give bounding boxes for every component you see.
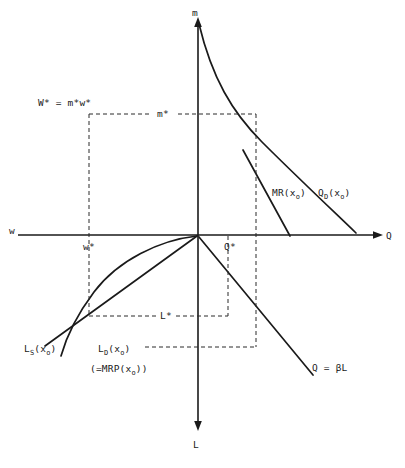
curve-labor-demand bbox=[61, 236, 197, 356]
mr-arg-close: ) bbox=[300, 187, 306, 198]
curve-label-labor-supply: LS(xo) bbox=[24, 343, 57, 357]
mr-arg: (x bbox=[284, 187, 296, 198]
curve-label-production: Q = βL bbox=[312, 362, 348, 373]
axis-label-Q: Q bbox=[386, 230, 392, 241]
curve-label-demand: QD(xo) bbox=[318, 187, 351, 201]
curve-label-labor-demand: LD(xo) bbox=[98, 343, 131, 357]
label-L-star: L* bbox=[160, 310, 172, 321]
l-axis-arrowhead bbox=[194, 421, 202, 431]
svg-text:(=MRP(xo)): (=MRP(xo)) bbox=[90, 363, 148, 377]
label-w-star: w* bbox=[83, 241, 95, 252]
mr-base: MR bbox=[272, 187, 284, 198]
curve-labor-supply bbox=[45, 236, 197, 346]
curve-demand-qd bbox=[199, 24, 356, 233]
label-wage-bill: W* = m*w* bbox=[38, 97, 91, 108]
label-m-star: m* bbox=[157, 108, 169, 119]
curve-label-marginal-revenue: MR(xo) bbox=[272, 187, 306, 201]
mrp-open: (=MRP(x bbox=[90, 363, 132, 374]
label-Q-star: Q* bbox=[224, 241, 236, 252]
q-axis-arrowhead bbox=[373, 231, 383, 239]
diagram-canvas: m Q w L W* = m*w* m* w* Q* L* QD(xo) MR(… bbox=[0, 0, 405, 468]
ld-arg: (x bbox=[108, 343, 120, 354]
svg-text:LS(xo): LS(xo) bbox=[24, 343, 57, 357]
axis-label-L: L bbox=[193, 439, 199, 450]
qd-arg: (x bbox=[328, 187, 340, 198]
figure-root: m Q w L W* = m*w* m* w* Q* L* QD(xo) MR(… bbox=[0, 0, 405, 468]
ls-arg-close: ) bbox=[51, 343, 57, 354]
qd-arg-close: ) bbox=[345, 187, 351, 198]
svg-text:MR(xo): MR(xo) bbox=[272, 187, 306, 201]
curve-label-labor-demand-note: (=MRP(xo)) bbox=[90, 363, 148, 377]
svg-text:LD(xo): LD(xo) bbox=[98, 343, 131, 357]
axis-label-m: m bbox=[192, 7, 198, 18]
ls-arg: (x bbox=[34, 343, 46, 354]
m-axis-arrowhead bbox=[194, 17, 202, 27]
ld-arg-close: ) bbox=[125, 343, 131, 354]
axis-label-w: w bbox=[9, 225, 15, 236]
svg-text:QD(xo): QD(xo) bbox=[318, 187, 351, 201]
mrp-close: )) bbox=[136, 363, 148, 374]
vertical-axis bbox=[194, 17, 202, 431]
